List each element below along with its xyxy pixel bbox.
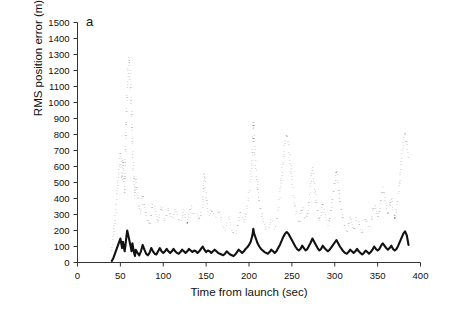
solid-lower-series (112, 229, 409, 261)
plot-canvas (0, 0, 458, 312)
chart-figure: a RMS position error (m) Time from launc… (0, 0, 458, 312)
dotted-upper-series (112, 56, 409, 253)
data-series-group (112, 56, 409, 261)
axis-lines (78, 23, 421, 263)
axis-tick-marks (74, 23, 421, 267)
